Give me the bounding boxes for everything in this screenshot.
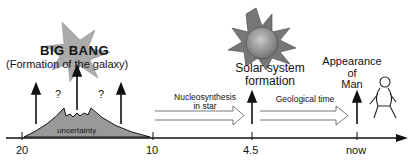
man-label-line1: Appearance [322, 56, 382, 68]
tick-10: 10 [146, 144, 158, 156]
geological-time-label: Geological time [265, 95, 345, 104]
man-label-line3: Man [322, 79, 382, 91]
axis-arrowhead [396, 134, 408, 142]
appearance-of-man-label: Appearance of Man [322, 56, 382, 91]
solar-system-label: Solar system formation [234, 62, 306, 87]
big-bang-subtitle: (Formation of the galaxy) [6, 59, 128, 71]
tick-20: 20 [16, 144, 28, 156]
solar-label-line1: Solar system [234, 62, 306, 75]
nucleosynthesis-label: Nucleosynthesis in star [165, 93, 245, 111]
solar-label-line2: formation [234, 75, 306, 88]
tick-now: now [346, 144, 366, 156]
nucleo-line2: in star [165, 102, 245, 111]
geological-arrow [260, 106, 348, 125]
question-mark-right: ? [98, 88, 104, 100]
uncertainty-label: uncertainty [57, 127, 96, 135]
tick-4-5: 4.5 [243, 144, 258, 156]
question-mark-left: ? [55, 88, 61, 100]
big-bang-title: BIG BANG [40, 44, 109, 58]
